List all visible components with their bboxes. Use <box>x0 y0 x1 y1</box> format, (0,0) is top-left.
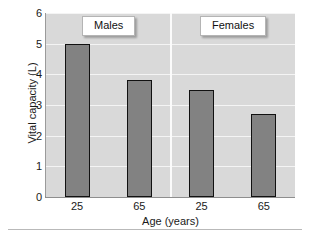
x-tick-label: 25 <box>187 200 217 212</box>
chart-figure: Vital capacity (L) 6543210 Males Females… <box>0 0 310 237</box>
y-tick-label: 5 <box>28 39 42 49</box>
x-axis-label: Age (years) <box>46 215 295 227</box>
y-tick-label: 6 <box>28 8 42 18</box>
panel-label-females: Females <box>200 16 266 36</box>
x-tick-label: 65 <box>249 200 279 212</box>
panel-label-males: Males <box>82 16 135 36</box>
x-tick-label: 25 <box>62 200 92 212</box>
y-tick-label: 3 <box>28 100 42 110</box>
bar <box>251 114 276 197</box>
y-tick-label: 2 <box>28 131 42 141</box>
panel-divider <box>170 13 172 197</box>
bar <box>189 90 214 197</box>
y-tick-label: 0 <box>28 192 42 202</box>
y-tick-label: 1 <box>28 161 42 171</box>
x-tick-label: 65 <box>124 200 154 212</box>
footer-divider <box>8 229 302 230</box>
y-tick-label: 4 <box>28 69 42 79</box>
plot-area <box>46 13 295 197</box>
bar <box>65 44 90 197</box>
bar <box>127 80 152 197</box>
y-axis-tick-labels: 6543210 <box>26 0 42 237</box>
